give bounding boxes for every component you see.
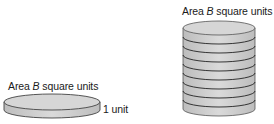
area-label-suffix: square units bbox=[214, 5, 273, 17]
area-variable: B bbox=[33, 80, 40, 92]
height-label: 1 unit bbox=[103, 103, 128, 115]
area-label-suffix: square units bbox=[40, 80, 99, 92]
right-area-label: Area B square units bbox=[182, 5, 272, 17]
prism-diagram bbox=[0, 0, 274, 124]
stacked-disks bbox=[183, 21, 255, 116]
area-label-prefix: Area bbox=[8, 80, 33, 92]
area-label-prefix: Area bbox=[182, 5, 207, 17]
single-disk bbox=[4, 94, 100, 118]
area-variable: B bbox=[207, 5, 214, 17]
left-area-label: Area B square units bbox=[8, 80, 98, 92]
